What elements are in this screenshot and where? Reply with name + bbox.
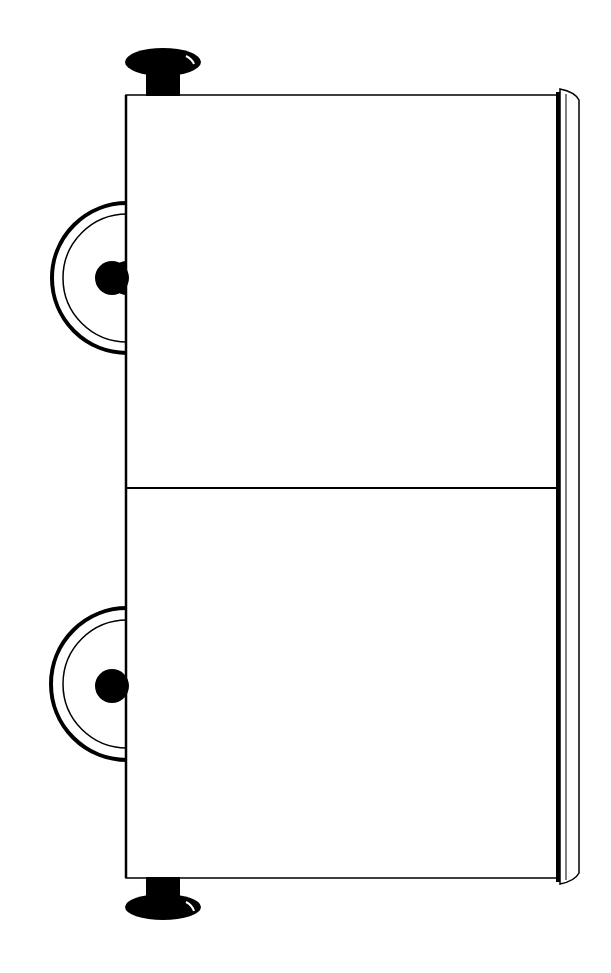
side-rail [556, 89, 579, 884]
cart-drawing [0, 0, 611, 973]
bottom-knob [125, 877, 201, 920]
top-knob [125, 48, 201, 96]
wheel-bottom [51, 608, 129, 760]
wheel-top [52, 203, 129, 353]
cart-body [126, 95, 557, 878]
